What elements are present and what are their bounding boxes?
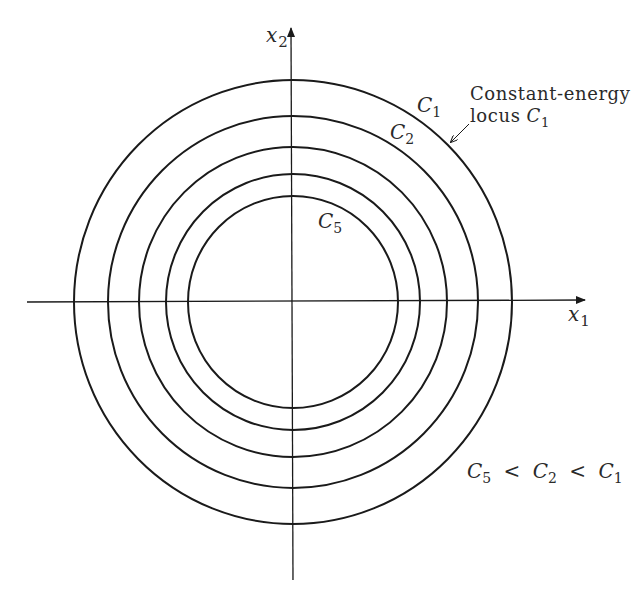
label-c5: C5 [318, 209, 342, 236]
annotation-line-2: locusC1 [470, 105, 550, 130]
phase-plane-diagram: x2 x1 C1 C2 C5 Constant-energy locusC1 C… [0, 0, 639, 592]
annotation-constant-energy: Constant-energy locusC1 [451, 83, 631, 142]
annotation-line-1: Constant-energy [470, 83, 631, 104]
x2-axis [291, 28, 293, 580]
label-c1: C1 [417, 93, 441, 120]
label-c2: C2 [390, 120, 414, 147]
inequality-label: C5 < C2 < C1 [467, 459, 623, 488]
x1-axis-label: x1 [568, 302, 590, 330]
x1-axis [27, 300, 585, 302]
x2-axis-label: x2 [266, 23, 288, 51]
annotation-arrow [451, 124, 469, 142]
contour-c5 [188, 196, 398, 408]
